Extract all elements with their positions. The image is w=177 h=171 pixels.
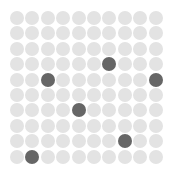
dot — [10, 150, 24, 164]
dot — [56, 42, 70, 56]
dot — [56, 73, 70, 87]
dot — [25, 57, 39, 71]
dot — [25, 134, 39, 148]
dot — [72, 134, 86, 148]
dot — [102, 134, 116, 148]
dot — [133, 26, 147, 40]
dot — [102, 103, 116, 117]
dot — [41, 150, 55, 164]
dot — [56, 26, 70, 40]
dot — [87, 26, 101, 40]
dot — [133, 57, 147, 71]
dot — [41, 26, 55, 40]
dot — [10, 57, 24, 71]
dot — [133, 88, 147, 102]
dot — [10, 11, 24, 25]
dot — [41, 57, 55, 71]
dot-active — [25, 150, 39, 164]
dot — [56, 88, 70, 102]
dot — [25, 26, 39, 40]
dot — [102, 73, 116, 87]
dot — [102, 26, 116, 40]
dot — [118, 11, 132, 25]
dot — [25, 42, 39, 56]
dot-active — [41, 73, 55, 87]
dot — [87, 150, 101, 164]
dot — [56, 103, 70, 117]
dot — [72, 57, 86, 71]
dot — [56, 11, 70, 25]
dot — [72, 150, 86, 164]
dot — [149, 103, 163, 117]
dot — [87, 57, 101, 71]
dot — [72, 73, 86, 87]
dot — [118, 26, 132, 40]
dot — [102, 119, 116, 133]
dot — [118, 119, 132, 133]
dot — [10, 26, 24, 40]
dot — [118, 103, 132, 117]
dot — [41, 42, 55, 56]
dot — [149, 11, 163, 25]
dot — [72, 42, 86, 56]
dot — [25, 73, 39, 87]
dot — [118, 88, 132, 102]
dot — [133, 42, 147, 56]
dot — [149, 134, 163, 148]
dot — [133, 134, 147, 148]
dot-active — [118, 134, 132, 148]
dot — [41, 103, 55, 117]
dot — [102, 150, 116, 164]
dot — [10, 88, 24, 102]
dot — [118, 150, 132, 164]
dot — [10, 119, 24, 133]
dot — [87, 11, 101, 25]
dot — [149, 57, 163, 71]
dot — [41, 88, 55, 102]
dot — [87, 88, 101, 102]
dot — [41, 134, 55, 148]
dot — [87, 134, 101, 148]
dot — [118, 42, 132, 56]
dot — [56, 119, 70, 133]
dot — [25, 103, 39, 117]
dot — [56, 150, 70, 164]
dot — [56, 134, 70, 148]
dot — [25, 88, 39, 102]
dot — [10, 103, 24, 117]
dot — [133, 103, 147, 117]
dot — [10, 42, 24, 56]
dot — [10, 134, 24, 148]
dot — [149, 88, 163, 102]
dot — [87, 103, 101, 117]
dot — [149, 150, 163, 164]
dot — [149, 26, 163, 40]
dot — [133, 119, 147, 133]
dot-active — [102, 57, 116, 71]
dot — [41, 11, 55, 25]
dot — [72, 88, 86, 102]
dot — [25, 11, 39, 25]
dot — [10, 73, 24, 87]
dot — [149, 42, 163, 56]
dot-grid — [10, 11, 164, 165]
dot — [133, 73, 147, 87]
dot — [149, 119, 163, 133]
dot — [72, 26, 86, 40]
dot — [72, 11, 86, 25]
dot — [102, 11, 116, 25]
dot — [118, 73, 132, 87]
dot — [118, 57, 132, 71]
dot — [25, 119, 39, 133]
dot — [87, 42, 101, 56]
dot-active — [72, 103, 86, 117]
dot-active — [149, 73, 163, 87]
dot — [41, 119, 55, 133]
dot — [133, 11, 147, 25]
dot — [102, 42, 116, 56]
dot — [102, 88, 116, 102]
dot — [87, 73, 101, 87]
dot — [72, 119, 86, 133]
dot — [56, 57, 70, 71]
dot — [133, 150, 147, 164]
